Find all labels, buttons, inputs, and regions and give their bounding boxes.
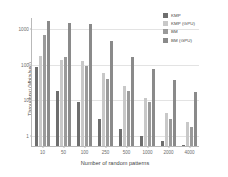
legend-label: KMP (GPU) bbox=[171, 21, 195, 26]
legend-swatch-icon bbox=[163, 21, 168, 26]
bar bbox=[56, 91, 59, 146]
bar bbox=[190, 127, 193, 146]
bar bbox=[43, 35, 46, 146]
legend-label: BM (GPU) bbox=[171, 38, 192, 43]
bar-group: 1000 bbox=[137, 18, 158, 146]
x-tick-mark bbox=[42, 146, 43, 148]
bar bbox=[35, 67, 38, 146]
bar-group: 100 bbox=[74, 18, 95, 146]
x-tick-label: 1000 bbox=[142, 150, 152, 155]
bar bbox=[102, 73, 105, 146]
legend-item: BM bbox=[163, 29, 195, 34]
bar bbox=[140, 136, 143, 146]
x-tick-mark bbox=[189, 146, 190, 148]
x-tick-mark bbox=[168, 146, 169, 148]
legend-label: BM bbox=[171, 29, 178, 34]
bar bbox=[131, 57, 134, 146]
bar bbox=[106, 79, 109, 146]
bar bbox=[81, 61, 84, 146]
bar bbox=[144, 98, 147, 146]
x-tick-mark bbox=[147, 146, 148, 148]
bar bbox=[186, 122, 189, 146]
x-tick-mark bbox=[84, 146, 85, 148]
bar bbox=[85, 66, 88, 146]
x-tick-label: 4000 bbox=[184, 150, 194, 155]
bar bbox=[165, 113, 168, 146]
x-tick-label: 10 bbox=[40, 150, 45, 155]
legend-swatch-icon bbox=[163, 29, 168, 34]
x-tick-label: 2000 bbox=[163, 150, 173, 155]
y-tick-label: 100 bbox=[21, 62, 32, 67]
bar bbox=[173, 80, 176, 146]
bar-group: 10 bbox=[32, 18, 53, 146]
legend-swatch-icon bbox=[163, 38, 168, 43]
bar bbox=[98, 119, 101, 146]
y-tick-label: 10 bbox=[24, 98, 32, 103]
x-tick-mark bbox=[63, 146, 64, 148]
x-tick-label: 500 bbox=[123, 150, 131, 155]
bar bbox=[119, 129, 122, 146]
x-axis-label: Number of random patterns bbox=[31, 160, 199, 166]
x-tick-mark bbox=[126, 146, 127, 148]
x-tick-mark bbox=[105, 146, 106, 148]
bar bbox=[182, 145, 185, 146]
legend-item: BM (GPU) bbox=[163, 38, 195, 43]
bar bbox=[47, 21, 50, 146]
bar bbox=[152, 69, 155, 146]
legend-swatch-icon bbox=[163, 13, 168, 18]
bar bbox=[60, 60, 63, 146]
bar bbox=[127, 91, 130, 146]
x-tick-label: 250 bbox=[102, 150, 110, 155]
legend-label: KMP bbox=[171, 13, 181, 18]
bar bbox=[77, 102, 80, 146]
x-tick-label: 100 bbox=[81, 150, 89, 155]
legend-item: KMP bbox=[163, 13, 195, 18]
bar bbox=[161, 141, 164, 146]
bar bbox=[110, 41, 113, 146]
bar bbox=[194, 92, 197, 146]
bar bbox=[169, 119, 172, 146]
x-tick-label: 50 bbox=[61, 150, 66, 155]
bar bbox=[39, 56, 42, 146]
chart-legend: KMPKMP (GPU)BMBM (GPU) bbox=[163, 13, 195, 43]
bar-group: 250 bbox=[95, 18, 116, 146]
bar-group: 500 bbox=[116, 18, 137, 146]
bar-chart: Throughput (Mbits/sec) 11010010001050100… bbox=[0, 0, 228, 177]
bar bbox=[123, 86, 126, 146]
y-tick-label: 1000 bbox=[18, 26, 32, 31]
bar-group: 50 bbox=[53, 18, 74, 146]
bar bbox=[68, 23, 71, 146]
legend-item: KMP (GPU) bbox=[163, 21, 195, 26]
bar bbox=[89, 24, 92, 146]
bar bbox=[64, 57, 67, 146]
bar bbox=[148, 102, 151, 146]
